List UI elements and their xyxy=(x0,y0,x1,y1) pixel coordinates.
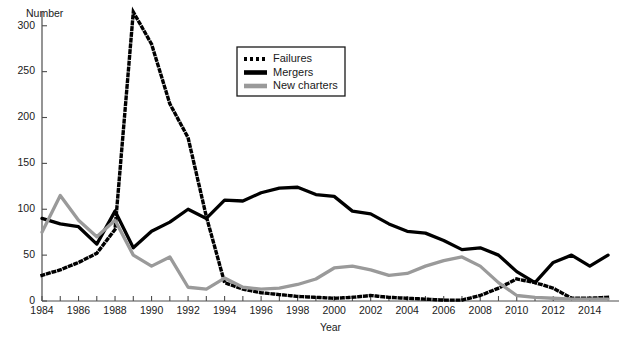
y-axis-tick-label: 200 xyxy=(17,110,35,122)
x-axis-tick-label: 1984 xyxy=(30,304,54,316)
x-axis-tick-label: 2002 xyxy=(359,304,383,316)
legend-label-mergers: Mergers xyxy=(273,66,314,78)
series-line-new-charters xyxy=(42,195,608,299)
y-axis-tick-label: 150 xyxy=(17,156,35,168)
y-axis-tick-label: 300 xyxy=(17,19,35,31)
y-axis-title: Number xyxy=(26,7,64,19)
x-axis-tick-label: 1988 xyxy=(103,304,127,316)
x-axis-tick-label: 2008 xyxy=(469,304,493,316)
x-axis-tick-label: 2000 xyxy=(322,304,346,316)
x-axis-tick-label: 1990 xyxy=(140,304,164,316)
line-chart: 0501001502002503001984198619881990199219… xyxy=(0,0,636,345)
chart-container: 0501001502002503001984198619881990199219… xyxy=(0,0,636,345)
x-axis-tick-label: 2004 xyxy=(396,304,420,316)
x-axis-tick-label: 2014 xyxy=(578,304,602,316)
x-axis-tick-label: 2006 xyxy=(432,304,456,316)
x-axis-tick-label: 2012 xyxy=(542,304,566,316)
y-axis-tick-label: 50 xyxy=(23,248,35,260)
x-axis-tick-label: 1996 xyxy=(249,304,273,316)
x-axis-title: Year xyxy=(320,321,342,333)
y-axis-tick-label: 250 xyxy=(17,64,35,76)
x-axis-tick-label: 1994 xyxy=(213,304,237,316)
series-line-mergers xyxy=(42,187,608,282)
x-axis-tick-label: 1998 xyxy=(286,304,310,316)
x-axis-tick-label: 1986 xyxy=(67,304,91,316)
x-axis-tick-label: 2010 xyxy=(505,304,529,316)
x-axis-tick-label: 1992 xyxy=(176,304,200,316)
legend-label-failures: Failures xyxy=(273,52,313,64)
y-axis-tick-label: 100 xyxy=(17,202,35,214)
legend-label-new-charters: New charters xyxy=(273,79,338,91)
